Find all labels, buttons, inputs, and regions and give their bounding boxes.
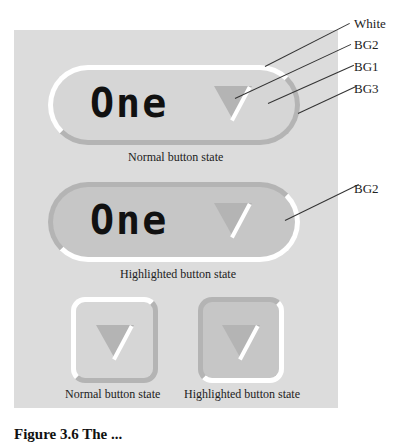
label-white: White	[354, 16, 386, 32]
highlighted-pill-caption: Highlighted button state	[120, 267, 236, 282]
label-highlighted-bg2: BG2	[354, 181, 379, 197]
label-bg1: BG1	[354, 59, 379, 75]
normal-square-caption: Normal button state	[65, 387, 160, 402]
highlighted-square-caption: Highlighted button state	[184, 387, 300, 402]
normal-pill-text: One	[90, 80, 168, 126]
highlighted-pill-button	[48, 182, 300, 262]
figure-caption: Figure 3.6 The ...	[14, 426, 122, 443]
normal-pill-button	[48, 65, 300, 145]
label-bg3: BG3	[354, 81, 379, 97]
label-bg2: BG2	[354, 37, 379, 53]
highlighted-pill-text: One	[90, 197, 168, 243]
normal-pill-caption: Normal button state	[128, 150, 223, 165]
